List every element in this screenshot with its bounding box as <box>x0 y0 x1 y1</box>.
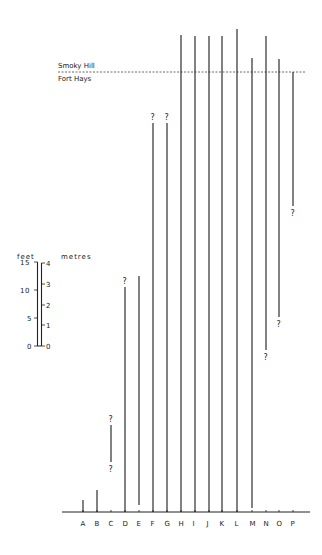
feet-tick-10: 10 <box>20 287 30 295</box>
feet-tick-0: 0 <box>27 343 32 351</box>
section-column-i: I <box>193 36 196 528</box>
scale-bar: feet metres 15 10 5 0 4 3 2 1 0 <box>17 253 92 351</box>
lower-formation-label: Fort Hays <box>58 75 92 83</box>
uncertain-bottom-marker: ? <box>109 465 113 474</box>
section-column-b: B <box>95 490 100 528</box>
column-label: E <box>137 520 142 528</box>
column-label: I <box>193 520 196 528</box>
column-label: M <box>250 520 257 528</box>
column-label: G <box>165 520 171 528</box>
column-label: P <box>291 520 296 528</box>
column-label: J <box>206 520 210 528</box>
metres-tick-1: 1 <box>46 322 51 330</box>
column-label: B <box>95 520 100 528</box>
column-label: D <box>123 520 129 528</box>
feet-tick-15: 15 <box>20 259 30 267</box>
column-label: N <box>264 520 270 528</box>
metres-tick-4: 4 <box>46 260 51 268</box>
section-column-c: ??C <box>109 415 114 528</box>
section-column-n: ?N <box>264 36 270 528</box>
section-column-m: M <box>250 58 257 528</box>
stratigraphic-section-diagram: Smoky Hill Fort Hays feet metres 15 10 5… <box>0 0 322 555</box>
section-columns: AB??C?DE?F?GHIJKLM?N?O?P <box>81 29 296 528</box>
column-label: C <box>109 520 114 528</box>
uncertain-top-marker: ? <box>123 277 127 286</box>
column-label: F <box>151 520 156 528</box>
uncertain-top-marker: ? <box>151 113 155 122</box>
uncertain-bottom-marker: ? <box>264 353 268 362</box>
metres-tick-2: 2 <box>46 302 51 310</box>
uncertain-top-marker: ? <box>109 415 113 424</box>
uncertain-bottom-marker: ? <box>291 209 295 218</box>
upper-formation-label: Smoky Hill <box>58 62 95 70</box>
section-column-h: H <box>179 35 185 528</box>
column-label: H <box>179 520 185 528</box>
column-label: A <box>81 520 86 528</box>
section-column-d: ?D <box>123 277 129 528</box>
column-label: O <box>277 520 283 528</box>
metres-tick-3: 3 <box>46 281 51 289</box>
section-column-l: L <box>235 29 239 528</box>
section-column-g: ?G <box>165 113 171 528</box>
section-column-e: E <box>137 276 142 528</box>
section-column-a: A <box>81 500 86 528</box>
metres-tick-0: 0 <box>46 343 51 351</box>
metres-label: metres <box>61 253 92 261</box>
section-column-p: ?P <box>291 72 296 528</box>
uncertain-top-marker: ? <box>165 113 169 122</box>
section-column-k: K <box>220 36 225 528</box>
column-label: K <box>220 520 225 528</box>
column-label: L <box>235 520 239 528</box>
section-column-f: ?F <box>151 113 156 528</box>
section-column-o: ?O <box>277 59 283 528</box>
section-column-j: J <box>206 36 210 528</box>
feet-tick-5: 5 <box>27 315 32 323</box>
uncertain-bottom-marker: ? <box>277 320 281 329</box>
